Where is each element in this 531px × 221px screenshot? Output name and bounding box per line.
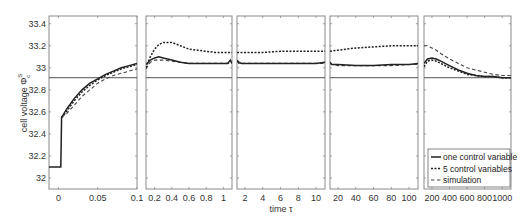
x-tick-label: 8 (296, 193, 301, 203)
x-tick-label: 0.6 (183, 193, 196, 203)
panel-frame (237, 16, 325, 189)
x-tick-label: 200 (424, 193, 439, 203)
y-axis: 3232.232.432.632.83333.233.4 (28, 19, 46, 183)
y-axis-label-sub: c (25, 75, 31, 78)
x-axis-label: time τ (269, 204, 293, 214)
x-tick-label: 0.1 (131, 193, 144, 203)
x-tick-label: 400 (442, 193, 457, 203)
x-tick-label: 800 (477, 193, 492, 203)
y-tick-label: 32.4 (28, 129, 46, 139)
y-tick-label: 32.6 (28, 107, 46, 117)
x-tick-label: 0 (56, 193, 61, 203)
panel-frame (49, 16, 137, 189)
panel-frame (330, 16, 418, 189)
x-tick-label: 60 (369, 193, 379, 203)
legend-item-label: 5 control variables (443, 164, 512, 174)
y-tick-label: 32.2 (28, 151, 46, 161)
x-tick-label: 40 (351, 193, 361, 203)
x-tick-label: 0.2 (148, 193, 161, 203)
legend: one control variable5 control variabless… (428, 149, 517, 187)
x-tick-label: 0.4 (166, 193, 179, 203)
panel-3: 246810 (237, 16, 325, 203)
x-tick-label: 10 (311, 193, 321, 203)
x-tick-label: 6 (278, 193, 283, 203)
y-axis-label: cell voltage ΦcS (17, 74, 31, 133)
x-tick-label: 80 (386, 193, 396, 203)
x-tick-label: 20 (333, 193, 343, 203)
svg-text:cell voltage ΦcS: cell voltage ΦcS (17, 74, 31, 133)
y-tick-label: 33.4 (28, 19, 46, 29)
panel-4: 20406080100 (330, 16, 418, 203)
x-tick-label: 1 (221, 193, 226, 203)
legend-item-label: simulation (443, 175, 482, 185)
x-tick-label: 600 (460, 193, 475, 203)
multi-panel-line-chart: 00.050.10.20.40.60.812468102040608010020… (0, 0, 531, 221)
x-tick-label: 2 (242, 193, 247, 203)
x-tick-label: 4 (260, 193, 265, 203)
x-tick-label: 1000 (492, 193, 512, 203)
legend-item-label: one control variable (443, 152, 517, 162)
y-tick-label: 32.8 (28, 85, 46, 95)
panel-1: 00.050.1 (49, 16, 143, 203)
panel-frame (146, 16, 232, 189)
y-axis-label-sup: S (17, 74, 23, 78)
y-tick-label: 33.2 (28, 41, 46, 51)
panel-2: 0.20.40.60.81 (146, 16, 232, 203)
y-tick-label: 33 (36, 63, 46, 73)
x-tick-label: 0.05 (89, 193, 107, 203)
x-tick-label: 0.8 (200, 193, 213, 203)
y-axis-label-text: cell voltage Φ (19, 78, 29, 133)
x-tick-label: 100 (402, 193, 417, 203)
y-tick-label: 32 (36, 173, 46, 183)
